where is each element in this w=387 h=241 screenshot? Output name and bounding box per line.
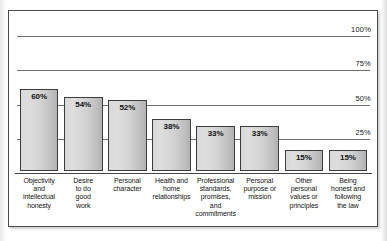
- bar-column[interactable]: 60%: [20, 89, 59, 171]
- category-label-line: personal: [280, 185, 328, 193]
- category-label: Professionalstandards,promises,andcommit…: [192, 177, 240, 218]
- category-label-line: to do: [59, 185, 107, 193]
- bar-column[interactable]: 33%: [240, 126, 279, 171]
- category-label: Otherpersonalvalues orprinciples: [280, 177, 328, 210]
- bar-value-label: 38%: [152, 122, 191, 131]
- category-label-line: intellectual: [15, 193, 63, 201]
- category-label-line: Personal: [103, 177, 151, 185]
- bar-column[interactable]: 54%: [64, 97, 103, 171]
- category-label-line: values or: [280, 193, 328, 201]
- bar-value-label: 54%: [64, 100, 103, 109]
- category-label-line: good: [59, 193, 107, 201]
- bar-value-label: 52%: [108, 103, 147, 112]
- category-label: Health andhomerelationships: [147, 177, 195, 202]
- category-label-line: mission: [236, 193, 284, 201]
- category-label-line: promises,: [192, 193, 240, 201]
- category-label-line: Desire: [59, 177, 107, 185]
- category-label-line: purpose or: [236, 185, 284, 193]
- category-label-line: Personal: [236, 177, 284, 185]
- bar-value-label: 33%: [196, 129, 235, 138]
- category-label-line: honesty: [15, 202, 63, 210]
- bar-column[interactable]: 15%: [329, 150, 368, 171]
- category-label: Personalpurpose ormission: [236, 177, 284, 202]
- category-label: Objectivityandintellectualhonesty: [15, 177, 63, 210]
- category-label-line: Objectivity: [15, 177, 63, 185]
- category-label-line: work: [59, 202, 107, 210]
- category-label-line: commitments: [192, 210, 240, 218]
- bar-value-label: 15%: [285, 153, 324, 162]
- category-label-line: and: [15, 185, 63, 193]
- category-label-line: principles: [280, 202, 328, 210]
- plot-area: 100%75%50%25% 60%54%52%38%33%33%15%15% O…: [9, 11, 377, 226]
- category-label-line: honest and: [324, 185, 372, 193]
- bar-column[interactable]: 15%: [285, 150, 324, 171]
- category-label: Personalcharacter: [103, 177, 151, 193]
- category-label-line: Health and: [147, 177, 195, 185]
- category-label-line: home: [147, 185, 195, 193]
- category-label: Beinghonest andfollowingthe law: [324, 177, 372, 210]
- category-label-line: standards,: [192, 185, 240, 193]
- category-label-line: Professional: [192, 177, 240, 185]
- bar-value-label: 15%: [329, 153, 368, 162]
- bar-column[interactable]: 38%: [152, 119, 191, 171]
- bar-column[interactable]: 33%: [196, 126, 235, 171]
- bar-column[interactable]: 52%: [108, 100, 147, 171]
- category-label-line: following: [324, 193, 372, 201]
- category-label: Desireto dogoodwork: [59, 177, 107, 210]
- bar-value-label: 60%: [20, 92, 59, 101]
- category-label-line: character: [103, 185, 151, 193]
- figure-root: 100%75%50%25% 60%54%52%38%33%33%15%15% O…: [0, 0, 387, 241]
- bar[interactable]: [20, 89, 59, 171]
- bar-value-label: 33%: [240, 129, 279, 138]
- category-label-line: the law: [324, 202, 372, 210]
- chart-frame: 100%75%50%25% 60%54%52%38%33%33%15%15% O…: [8, 10, 378, 227]
- category-label-line: Other: [280, 177, 328, 185]
- category-label-line: and: [192, 202, 240, 210]
- category-label-line: relationships: [147, 193, 195, 201]
- category-label-line: Being: [324, 177, 372, 185]
